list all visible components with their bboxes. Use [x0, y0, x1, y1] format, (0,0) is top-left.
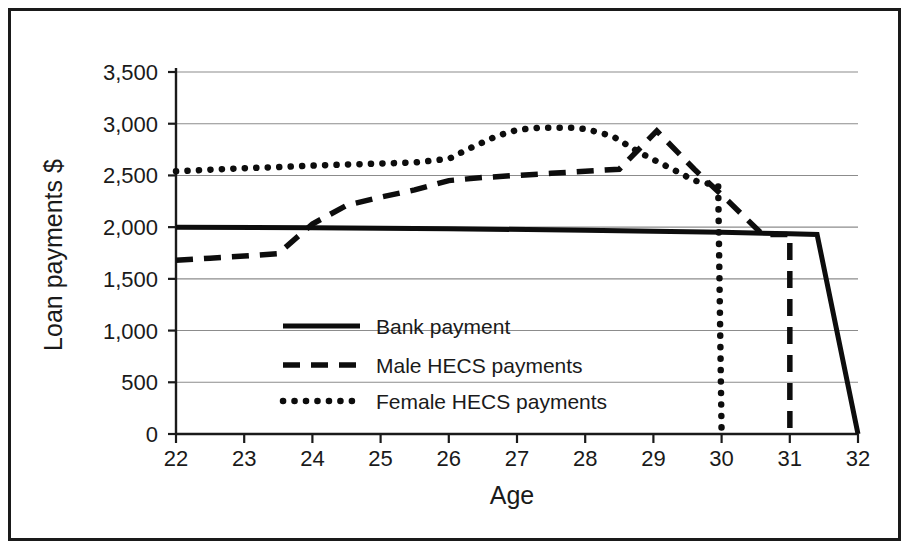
x-tick-label: 29 — [641, 446, 665, 471]
y-tick-label: 3,500 — [103, 60, 158, 85]
data-series-group — [176, 128, 858, 434]
legend-label: Bank payment — [376, 315, 510, 338]
x-tickmarks — [176, 434, 858, 443]
y-tick-label: 0 — [146, 422, 158, 447]
legend-label: Male HECS payments — [376, 354, 583, 377]
x-tick-label: 24 — [300, 446, 324, 471]
series-line — [176, 131, 790, 434]
x-tick-label: 25 — [368, 446, 392, 471]
y-tick-label: 2,500 — [103, 163, 158, 188]
x-axis-title: Age — [490, 481, 534, 509]
y-tick-label: 1,500 — [103, 267, 158, 292]
chart-legend: Bank paymentMale HECS paymentsFemale HEC… — [283, 315, 607, 413]
y-tick-labels: 3,5003,0002,5002,0001,5001,0005000 — [103, 60, 158, 447]
y-tick-label: 2,000 — [103, 215, 158, 240]
x-tick-label: 32 — [846, 446, 870, 471]
series-line — [176, 128, 722, 434]
x-tick-label: 22 — [164, 446, 188, 471]
x-tick-label: 31 — [778, 446, 802, 471]
x-tick-label: 26 — [437, 446, 461, 471]
line-chart: 3,5003,0002,5002,0001,5001,0005000 22232… — [0, 0, 913, 553]
y-tick-label: 500 — [121, 370, 158, 395]
x-tick-label: 28 — [573, 446, 597, 471]
y-axis-title: Loan payments $ — [39, 159, 67, 351]
x-tick-label: 27 — [505, 446, 529, 471]
x-tick-label: 23 — [232, 446, 256, 471]
y-tick-label: 3,000 — [103, 112, 158, 137]
y-tick-label: 1,000 — [103, 319, 158, 344]
x-tick-label: 30 — [709, 446, 733, 471]
x-tick-labels: 2223242526272829303132 — [164, 446, 870, 471]
legend-label: Female HECS payments — [376, 390, 607, 413]
